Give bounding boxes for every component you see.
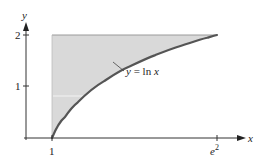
x-axis-arrow-icon: [237, 135, 246, 141]
x-tick-label-e2: e2: [210, 143, 219, 157]
x-tick-label-1: 1: [49, 145, 55, 157]
shaded-region: [52, 35, 217, 138]
curve-annotation-label: y = ln x: [125, 65, 159, 77]
y-tick-label-2: 2: [15, 29, 21, 41]
y-tick-label-1: 1: [15, 80, 21, 92]
y-axis-label: y: [21, 9, 27, 21]
ln-area-chart: y x 2 1 1 e2 y = ln x: [0, 0, 263, 161]
y-axis-arrow-icon: [23, 22, 29, 31]
x-axis-label: x: [247, 132, 253, 144]
